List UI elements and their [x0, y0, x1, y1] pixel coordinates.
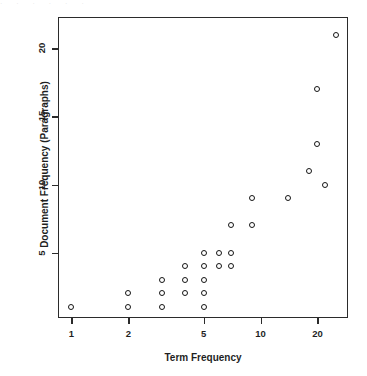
x-tick-label: 5	[201, 328, 206, 339]
x-tick-label: 10	[255, 328, 266, 339]
y-tick-mark	[52, 116, 58, 117]
x-tick-mark	[261, 318, 262, 324]
x-tick-label: 2	[126, 328, 131, 339]
x-tick-mark	[317, 318, 318, 324]
y-tick-mark	[52, 48, 58, 49]
x-tick-mark	[71, 318, 72, 324]
scatter-plot-figure: 1251020 5101520 Term Frequency Document …	[0, 0, 367, 376]
y-tick-mark	[52, 185, 58, 186]
x-tick-label: 1	[69, 328, 74, 339]
y-tick-mark	[52, 253, 58, 254]
x-axis-label: Term Frequency	[58, 352, 348, 363]
y-tick-label: 20	[36, 41, 47, 55]
x-tick-mark	[128, 318, 129, 324]
x-tick-label: 20	[312, 328, 323, 339]
x-tick-mark	[204, 318, 205, 324]
plot-frame	[58, 17, 348, 318]
y-axis-label: Document Frequency (Paragraphs)	[39, 60, 50, 270]
